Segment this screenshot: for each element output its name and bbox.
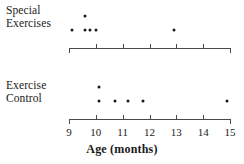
axis-tick-label: 10 — [90, 126, 101, 138]
data-point — [97, 86, 100, 89]
group-label-exercise-control: Exercise Control — [6, 79, 46, 105]
data-point — [113, 100, 116, 103]
axis-cap-left — [69, 119, 70, 124]
axis-tick — [96, 115, 97, 120]
data-point — [89, 29, 92, 32]
axis-tick — [176, 115, 177, 120]
axis-tick — [203, 115, 204, 120]
data-point — [172, 29, 175, 32]
axis-tick — [96, 44, 97, 49]
axis-cap-left — [69, 48, 70, 53]
data-point — [141, 100, 144, 103]
axis-tick-label: 9 — [66, 126, 72, 138]
axis-tick — [150, 44, 151, 49]
axis-tick — [123, 44, 124, 49]
axis-tick — [203, 44, 204, 49]
group-label-line-1: Exercise — [6, 79, 46, 92]
axis-cap-right — [230, 119, 231, 124]
data-point — [84, 15, 87, 18]
axis-tick-label: 13 — [171, 126, 182, 138]
axis-tick-label: 14 — [198, 126, 209, 138]
data-point — [84, 29, 87, 32]
data-point — [127, 100, 130, 103]
axis-tick — [150, 115, 151, 120]
data-point — [94, 29, 97, 32]
data-point — [70, 29, 73, 32]
group-label-line-2: Control — [6, 92, 46, 105]
group-label-line-2: Exercises — [6, 17, 51, 30]
axis-cap-right — [230, 48, 231, 53]
data-point — [226, 100, 229, 103]
axis-tick — [123, 115, 124, 120]
group-label-special-exercises: Special Exercises — [6, 4, 51, 30]
dotplot-figure: Special Exercises Exercise Control 91011… — [0, 0, 244, 164]
axis-tick-label: 11 — [117, 126, 128, 138]
axis-tick — [176, 44, 177, 49]
axis-tick-label: 15 — [225, 126, 236, 138]
axis-tick-label: 12 — [144, 126, 155, 138]
axis-title: Age (months) — [0, 142, 244, 157]
group-label-line-1: Special — [6, 4, 51, 17]
data-point — [97, 100, 100, 103]
